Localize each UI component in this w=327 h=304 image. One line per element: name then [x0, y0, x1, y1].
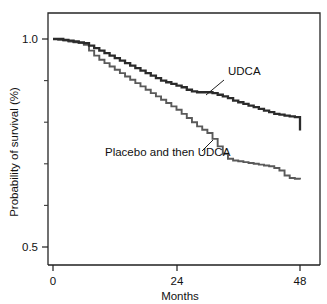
series-label-udca: UDCA	[228, 65, 261, 77]
y-axis-title: Probability of survival (%)	[8, 87, 20, 217]
x-tick-label-24: 24	[171, 275, 184, 287]
x-tick-label-0: 0	[50, 275, 56, 287]
x-axis-title: Months	[161, 290, 199, 302]
y-tick-label-1.0: 1.0	[22, 33, 38, 45]
x-tick-label-48: 48	[294, 275, 307, 287]
series-label-placebo-and-then-udca: Placebo and then UDCA	[105, 146, 231, 158]
chart-canvas: 1.0 0.5 0 24 48 Months Probability of su…	[0, 0, 327, 304]
survival-curve-figure: 1.0 0.5 0 24 48 Months Probability of su…	[0, 0, 327, 304]
y-tick-label-0.5: 0.5	[22, 241, 38, 253]
series-line-udca	[53, 39, 300, 131]
